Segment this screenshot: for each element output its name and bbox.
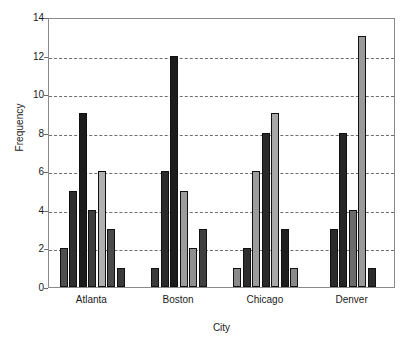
bar (358, 36, 366, 287)
y-tick-label-10: 10 (4, 90, 44, 100)
gridline-10 (49, 96, 394, 97)
bar (161, 171, 169, 287)
bar (98, 171, 106, 287)
x-axis-label-atlanta: Atlanta (46, 294, 136, 305)
y-tick-label-14: 14 (4, 13, 44, 23)
bar (368, 268, 376, 287)
bar (69, 191, 77, 287)
x-axis-label-boston: Boston (133, 294, 223, 305)
x-axis-label-denver: Denver (307, 294, 397, 305)
bar (252, 171, 260, 287)
bar (271, 113, 279, 287)
y-tick-label-8: 8 (4, 129, 44, 139)
bar (243, 248, 251, 287)
bar (281, 229, 289, 287)
x-axis-title: City (48, 322, 395, 333)
y-tick-label-12: 12 (4, 52, 44, 62)
bar (330, 229, 338, 287)
y-tick-mark-0 (44, 288, 48, 289)
y-axis-ticks: 02468101214 (0, 0, 44, 341)
bar (339, 133, 347, 287)
bar (290, 268, 298, 287)
bar (60, 248, 68, 287)
bar (107, 229, 115, 287)
plot-area (48, 18, 395, 288)
y-tick-label-6: 6 (4, 167, 44, 177)
bar (233, 268, 241, 287)
bar-chart: Frequency 02468101214 AtlantaBostonChica… (0, 0, 412, 341)
bar (349, 210, 357, 287)
bar (189, 248, 197, 287)
bar (180, 191, 188, 287)
bar (117, 268, 125, 287)
bar (88, 210, 96, 287)
gridline-12 (49, 58, 394, 59)
bar (170, 56, 178, 287)
y-tick-label-0: 0 (4, 283, 44, 293)
bar (262, 133, 270, 287)
bar (199, 229, 207, 287)
y-tick-label-4: 4 (4, 206, 44, 216)
y-tick-label-2: 2 (4, 244, 44, 254)
bar (151, 268, 159, 287)
bar (79, 113, 87, 287)
x-axis-label-chicago: Chicago (220, 294, 310, 305)
